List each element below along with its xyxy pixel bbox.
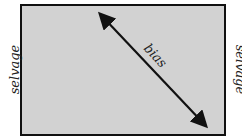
bias-arrow-icon: [0, 0, 242, 140]
right-selvage-label: selvage: [233, 45, 242, 95]
left-selvage-label: selvage: [7, 45, 22, 95]
